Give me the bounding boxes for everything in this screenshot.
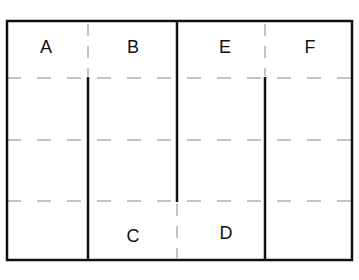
dashed-guides [7,78,352,201]
region-label-a: A [40,38,52,56]
region-label-b: B [127,38,139,56]
outer-wall [7,21,352,260]
region-label-e: E [219,38,231,56]
region-label-c: C [127,227,140,245]
walls [7,21,352,260]
region-label-d: D [220,224,233,242]
region-label-f: F [305,38,316,56]
